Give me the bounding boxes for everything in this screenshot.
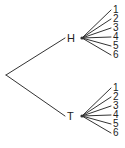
branch-label-tails: T [67, 111, 74, 122]
tree-diagram: H T 1 2 3 4 5 6 1 2 3 4 5 6 [0, 0, 125, 148]
outcome-label-tails-6: 6 [113, 128, 119, 138]
outcome-label-heads-6: 6 [113, 50, 119, 60]
tree-lines [0, 0, 125, 148]
branch-label-heads: H [67, 33, 75, 44]
